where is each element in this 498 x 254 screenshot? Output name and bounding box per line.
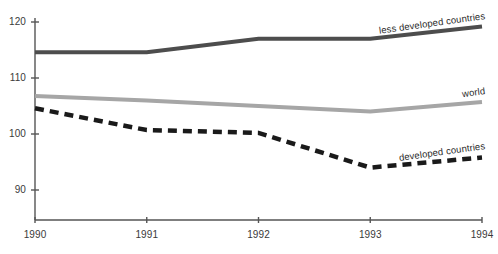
y-tick-label: 100 bbox=[0, 128, 26, 139]
series-line-world bbox=[35, 96, 482, 112]
y-tick-label: 110 bbox=[0, 72, 26, 83]
x-tick-label: 1991 bbox=[125, 229, 169, 240]
y-tick-label: 120 bbox=[0, 16, 26, 27]
x-tick-label: 1990 bbox=[13, 229, 57, 240]
x-tick-label: 1993 bbox=[348, 229, 392, 240]
y-tick-label: 90 bbox=[0, 184, 26, 195]
x-tick-label: 1994 bbox=[460, 229, 498, 240]
data-series-group bbox=[35, 26, 482, 167]
axis-group bbox=[35, 18, 482, 220]
x-tick-label: 1992 bbox=[237, 229, 281, 240]
